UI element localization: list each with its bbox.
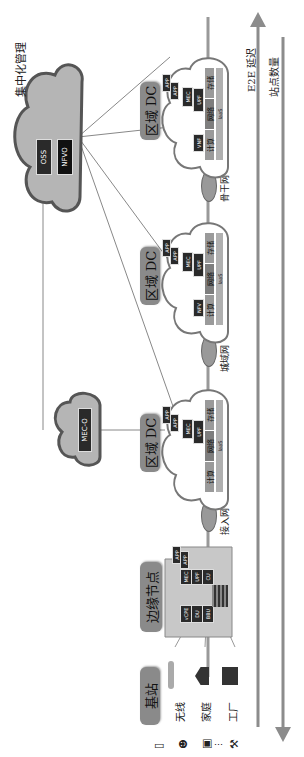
dc2-network: 网络 (205, 264, 214, 294)
dc3-label: 区域 DC (140, 82, 160, 140)
e2e-latency-label: E2E 延迟 (243, 48, 258, 92)
dc3-vnf: VNF (193, 134, 204, 152)
dc2-storage: 存储 (205, 233, 214, 263)
dc2-mec: MEC (182, 252, 193, 272)
dc1-app-2: APP (170, 414, 179, 432)
dc2-compute: 计算 (205, 295, 214, 325)
dc3-app-2: APP (170, 82, 179, 100)
site-count-label: 站点数量 (266, 57, 281, 97)
figure-canvas: 集中化管理 OSS NFVO MEC-O 基站 无线 家庭 工厂 ▯ ☻ ▣ ⋮… (0, 0, 304, 757)
dc1-label: 区域 DC (140, 414, 160, 472)
dc1-iaas: IaaS (216, 400, 223, 492)
dc2-nfv: NFV (193, 299, 204, 317)
dc3-upf: UPF (193, 88, 204, 112)
dc1-upf: UPF (193, 420, 204, 444)
dc2-label: 区域 DC (140, 247, 160, 305)
dc3-mec: MEC (182, 87, 193, 107)
dc3-storage: 存储 (205, 68, 214, 98)
dc2-upf: UPF (193, 253, 204, 277)
dc3-network: 网络 (205, 99, 214, 129)
dc3-iaas: IaaS (216, 68, 223, 160)
rotated-diagram: 集中化管理 OSS NFVO MEC-O 基站 无线 家庭 工厂 ▯ ☻ ▣ ⋮… (0, 0, 304, 757)
dc1-storage: 存储 (205, 400, 214, 430)
dc2-app-2: APP (170, 247, 179, 265)
dc2-iaas: IaaS (216, 233, 223, 325)
dc3-compute: 计算 (205, 130, 214, 160)
dc1-network: 网络 (205, 431, 214, 461)
dc1-compute: 计算 (205, 462, 214, 492)
dc1-mec: MEC (182, 419, 193, 439)
